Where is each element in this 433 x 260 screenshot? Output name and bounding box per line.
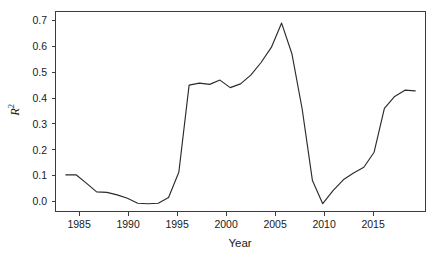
y-tick-label: 0.2: [32, 144, 47, 156]
y-tick-label: 0.6: [32, 40, 47, 52]
x-tick-label: 2000: [214, 218, 238, 230]
y-axis-title-base: R: [8, 108, 22, 117]
x-tick-label: 2015: [361, 218, 385, 230]
x-axis-tick-labels: 1985 1990 1995 2000 2005 2010 2015: [67, 218, 385, 230]
y-tick-label: 0.5: [32, 66, 47, 78]
y-axis-title-superscript: 2: [6, 104, 16, 108]
y-tick-label: 0.7: [32, 14, 47, 26]
y-axis-tick-labels: 0.0 0.1 0.2 0.3 0.4 0.5 0.6 0.7: [32, 14, 47, 207]
x-axis-title: Year: [228, 237, 251, 249]
chart-figure: 0.0 0.1 0.2 0.3 0.4 0.5 0.6 0.7 1985 199…: [0, 0, 433, 260]
data-series-line: [66, 23, 415, 204]
x-axis-ticks: [79, 212, 373, 216]
y-tick-label: 0.3: [32, 118, 47, 130]
y-tick-label: 0.4: [32, 92, 47, 104]
y-axis-title: R 2: [6, 104, 22, 117]
plot-frame: [56, 12, 426, 212]
y-tick-label: 0.0: [32, 195, 47, 207]
x-tick-label: 2010: [312, 218, 336, 230]
x-tick-label: 2005: [263, 218, 287, 230]
x-tick-label: 1990: [116, 218, 140, 230]
y-tick-label: 0.1: [32, 169, 47, 181]
line-chart: 0.0 0.1 0.2 0.3 0.4 0.5 0.6 0.7 1985 199…: [0, 0, 433, 260]
y-axis-ticks: [52, 21, 56, 202]
x-tick-label: 1985: [67, 218, 91, 230]
x-tick-label: 1995: [165, 218, 189, 230]
